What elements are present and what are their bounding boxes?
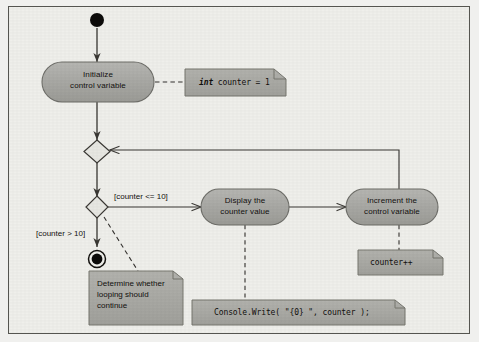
initial-node [90,13,104,27]
note-determine-looping [89,271,183,325]
activity-display-counter-value [201,189,289,225]
final-node [89,251,106,268]
merge-node [84,140,110,163]
note-counter-increment [358,250,443,275]
decision-node [86,196,108,218]
diagram-page: Initialize control variable Display the … [0,0,479,342]
edge-increment-loopback [110,150,399,189]
note-console-write [192,300,405,325]
diagram-frame: Initialize control variable Display the … [8,6,470,334]
diagram-canvas [9,7,470,334]
note-init-counter [185,69,286,96]
activity-increment-control-variable [346,189,438,225]
activity-initialize-control-variable [42,62,154,102]
note-anchor-decision [104,217,138,271]
